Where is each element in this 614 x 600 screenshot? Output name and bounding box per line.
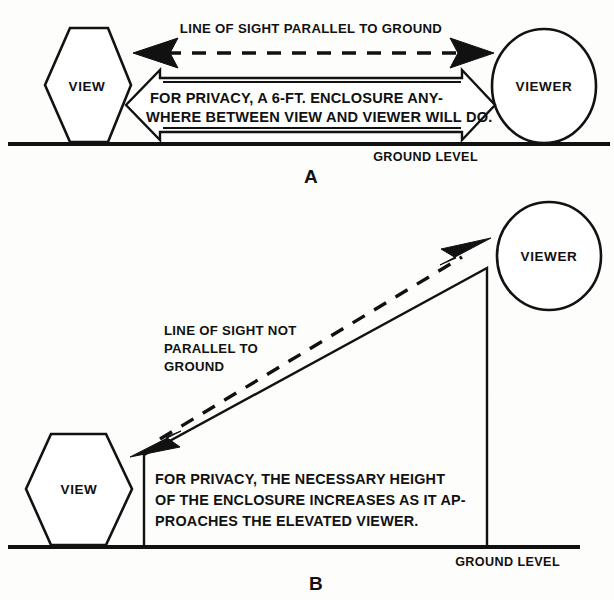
diagram-root: VIEW VIEWER LINE OF SIGHT PARALLEL TO GR… <box>0 0 614 600</box>
panel-label-b: B <box>309 573 323 594</box>
ground-label-a: GROUND LEVEL <box>373 150 478 164</box>
note-line-2-b: OF THE ENCLOSURE INCREASES AS IT AP- <box>155 492 466 508</box>
sight-label-line-1-b: LINE OF SIGHT NOT <box>164 323 297 338</box>
line-of-sight-figure: VIEW VIEWER LINE OF SIGHT PARALLEL TO GR… <box>0 0 614 600</box>
panel-a-group: VIEW VIEWER LINE OF SIGHT PARALLEL TO GR… <box>8 21 610 187</box>
panel-label-a: A <box>304 166 318 187</box>
banner-line-2-a: WHERE BETWEEN VIEW AND VIEWER WILL DO. <box>146 109 493 125</box>
viewer-label-b: VIEWER <box>521 249 578 264</box>
banner-line-1-a: FOR PRIVACY, A 6-FT. ENCLOSURE ANY- <box>150 90 443 106</box>
panel-b-group: VIEW VIEWER LINE OF SIGHT NOT PARALLEL T… <box>8 202 601 594</box>
sight-arrow-upper-b <box>440 238 491 265</box>
sight-label-line-2-b: PARALLEL TO <box>164 341 258 356</box>
note-line-3-b: PROACHES THE ELEVATED VIEWER. <box>155 513 419 529</box>
sight-label-line-3-b: GROUND <box>164 359 224 374</box>
view-label-b: VIEW <box>61 482 98 497</box>
sight-label-a: LINE OF SIGHT PARALLEL TO GROUND <box>180 21 442 36</box>
ground-label-b: GROUND LEVEL <box>455 555 560 569</box>
note-line-1-b: FOR PRIVACY, THE NECESSARY HEIGHT <box>155 471 445 487</box>
view-label-a: VIEW <box>69 79 106 94</box>
sight-arrow-lower-b <box>130 431 181 457</box>
sight-arrow-right-a <box>450 38 494 68</box>
viewer-label-a: VIEWER <box>516 79 573 94</box>
